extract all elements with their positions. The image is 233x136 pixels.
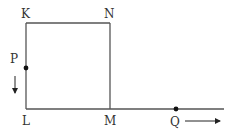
label-L: L — [22, 114, 30, 128]
label-M: M — [104, 114, 116, 128]
point-P — [24, 66, 29, 71]
label-P: P — [10, 52, 18, 66]
point-Q — [174, 107, 179, 112]
label-K: K — [21, 7, 31, 21]
label-N: N — [104, 7, 115, 21]
geometry-diagram: K N P L M Q — [0, 0, 233, 136]
label-Q: Q — [170, 115, 180, 129]
